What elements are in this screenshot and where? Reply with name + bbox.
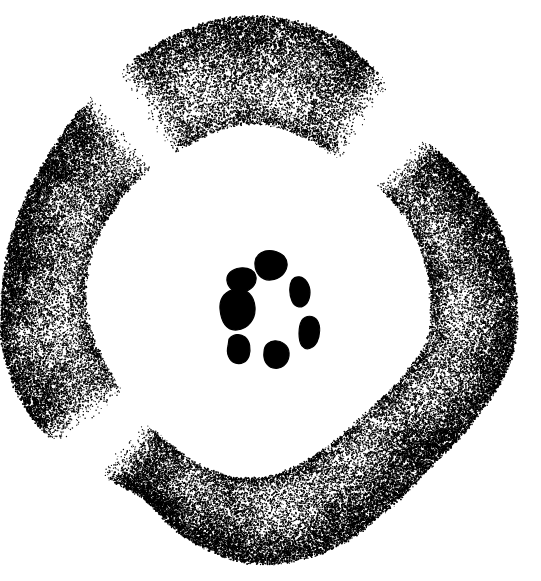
stipple-cortex-canvas — [0, 0, 541, 581]
figure-root — [0, 0, 541, 581]
